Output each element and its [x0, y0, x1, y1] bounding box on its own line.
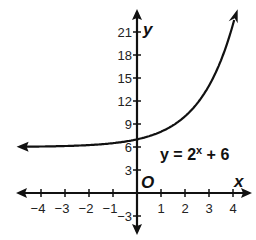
svg-text:−1: −1: [103, 201, 118, 216]
svg-text:12: 12: [118, 94, 132, 109]
svg-text:9: 9: [125, 117, 132, 132]
svg-text:−3: −3: [117, 209, 132, 224]
svg-text:−4: −4: [31, 201, 46, 216]
svg-text:18: 18: [118, 48, 132, 63]
svg-text:3: 3: [205, 201, 212, 216]
graph: −4−3−2−11234−336912151821 y x O y = 2x +…: [0, 0, 256, 240]
svg-text:−3: −3: [55, 201, 70, 216]
svg-text:2: 2: [181, 201, 188, 216]
x-axis-label: x: [233, 172, 245, 191]
svg-text:21: 21: [118, 25, 132, 40]
origin-label: O: [141, 173, 154, 192]
svg-text:4: 4: [229, 201, 236, 216]
svg-text:15: 15: [118, 71, 132, 86]
svg-text:1: 1: [157, 201, 164, 216]
y-axis-label: y: [142, 20, 154, 39]
svg-text:−2: −2: [79, 201, 94, 216]
svg-text:3: 3: [125, 163, 132, 178]
axes: [16, 9, 252, 235]
equation-label: y = 2x + 6: [160, 144, 229, 163]
